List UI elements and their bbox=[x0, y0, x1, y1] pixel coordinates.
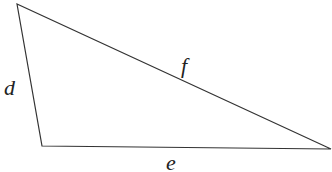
side-label-e: e bbox=[166, 150, 176, 172]
triangle-shape bbox=[17, 4, 331, 149]
side-label-f: f bbox=[181, 53, 190, 78]
side-label-d: d bbox=[4, 75, 16, 100]
triangle-diagram: d f e bbox=[0, 0, 332, 172]
